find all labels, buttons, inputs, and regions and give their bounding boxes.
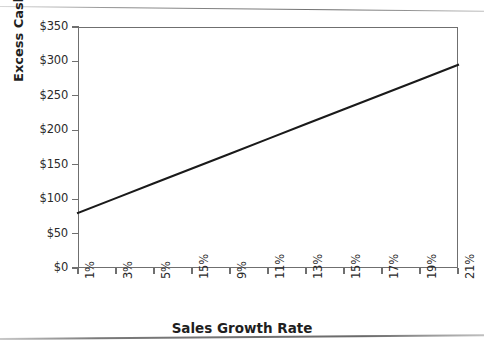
x-axis-tick: [191, 268, 192, 274]
line-chart: $0$50$100$150$200$250$300$350 1%3%5%15%9…: [0, 0, 484, 358]
y-axis-tick-label: $200: [8, 122, 68, 136]
x-axis-tick: [115, 268, 116, 274]
y-axis-tick-label: $150: [8, 157, 68, 171]
x-axis-tick: [419, 268, 420, 274]
data-line-layer: [78, 27, 458, 268]
excess-cash-line: [78, 65, 458, 213]
y-axis-title: Excess Cash: [11, 0, 26, 82]
y-axis-tick-label: $0: [8, 260, 68, 274]
x-axis-tick: [77, 268, 78, 274]
x-axis-tick: [343, 268, 344, 274]
x-axis-tick: [305, 268, 306, 274]
y-axis-tick-label: $50: [8, 226, 68, 240]
y-axis-tick-label: $250: [8, 88, 68, 102]
x-axis-title: Sales Growth Rate: [0, 320, 484, 336]
x-axis-tick-label: 21%: [463, 254, 477, 279]
x-axis-tick: [267, 268, 268, 274]
x-axis-tick: [457, 268, 458, 274]
x-axis-tick: [153, 268, 154, 274]
y-axis-tick-label: $100: [8, 191, 68, 205]
x-axis-tick: [229, 268, 230, 274]
x-axis-tick: [381, 268, 382, 274]
